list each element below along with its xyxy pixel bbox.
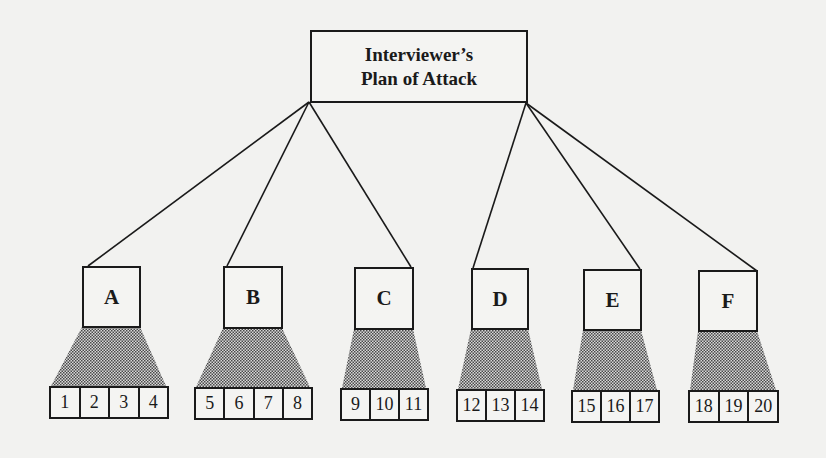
fan-f (690, 331, 776, 390)
leaves-b: 5 6 7 8 (194, 387, 313, 420)
leaf-item: 11 (400, 390, 427, 419)
leaf-item: 5 (196, 389, 225, 418)
leaves-a: 1 2 3 4 (49, 386, 169, 419)
leaf-item: 4 (140, 388, 168, 417)
fan-d (458, 329, 542, 389)
leaf-item: 18 (690, 392, 720, 421)
leaf-item: 3 (110, 388, 140, 417)
leaf-item: 10 (371, 390, 400, 419)
leaf-item: 17 (631, 392, 658, 421)
root-box-plan-of-attack: Interviewer’s Plan of Attack (310, 30, 528, 103)
leaf-item: 16 (602, 392, 631, 421)
fan-a (51, 327, 166, 386)
leaves-d: 12 13 14 (456, 389, 545, 422)
root-title-line2: Plan of Attack (361, 67, 477, 91)
fan-e (573, 330, 657, 390)
node-d: D (471, 268, 529, 330)
leaf-item: 2 (81, 388, 111, 417)
leaf-item: 8 (284, 389, 311, 418)
root-title-line1: Interviewer’s (361, 43, 477, 67)
leaf-item: 15 (573, 392, 602, 421)
fan-c (342, 329, 426, 388)
leaf-item: 7 (255, 389, 284, 418)
leaf-item: 6 (225, 389, 254, 418)
leaves-f: 18 19 20 (688, 390, 779, 423)
leaves-c: 9 10 11 (340, 388, 429, 421)
fan-b (196, 328, 310, 387)
node-a: A (82, 266, 141, 328)
leaf-item: 14 (516, 391, 543, 420)
leaf-item: 9 (342, 390, 371, 419)
leaf-item: 13 (487, 391, 516, 420)
node-e: E (583, 269, 642, 331)
node-b: B (223, 266, 283, 329)
node-f: F (698, 270, 758, 332)
leaf-item: 19 (720, 392, 750, 421)
node-c: C (354, 267, 414, 330)
leaves-e: 15 16 17 (571, 390, 660, 423)
leaf-item: 1 (51, 388, 81, 417)
leaf-item: 20 (749, 392, 777, 421)
leaf-item: 12 (458, 391, 487, 420)
